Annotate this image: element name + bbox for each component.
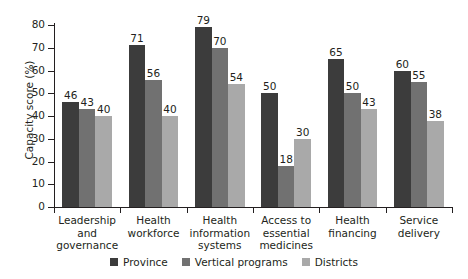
bar-value-label: 18 [279, 153, 292, 165]
bar-group: 464340 [62, 25, 112, 207]
y-axis-tick-label: 70 [32, 41, 45, 54]
legend-label: Districts [315, 256, 358, 268]
x-axis-tick [452, 208, 453, 213]
x-axis-category-label-line: medicines [247, 239, 325, 252]
legend-item[interactable]: Districts [302, 256, 358, 268]
bar-value-label: 54 [230, 71, 243, 83]
y-axis-tick-label: 50 [32, 86, 45, 99]
bar: 43 [361, 109, 378, 207]
y-axis-tick-label: 20 [32, 155, 45, 168]
plot-area: 464340715640797054501830655043605538 [54, 25, 452, 207]
bar: 40 [162, 116, 179, 207]
bar-group: 605538 [394, 25, 444, 207]
bar: 56 [145, 80, 162, 207]
bar-value-label: 50 [346, 80, 359, 92]
bar: 54 [228, 84, 245, 207]
bar-group: 797054 [195, 25, 245, 207]
bar-value-label: 30 [296, 126, 309, 138]
bar-value-label: 43 [362, 96, 375, 108]
x-axis-category-label-line: Service [380, 214, 458, 227]
bar-value-label: 70 [213, 35, 226, 47]
legend-swatch-icon [182, 258, 190, 266]
x-axis-tick [253, 208, 254, 213]
bar: 46 [62, 102, 79, 207]
y-axis-tick-label: 40 [32, 109, 45, 122]
bar-value-label: 55 [412, 69, 425, 81]
legend-swatch-icon [110, 258, 118, 266]
bar: 18 [278, 166, 295, 207]
x-axis-tick [386, 208, 387, 213]
x-axis-tick [187, 208, 188, 213]
y-axis-tick-label: 0 [38, 200, 45, 213]
bar: 79 [195, 27, 212, 207]
y-axis-tick-label: 10 [32, 177, 45, 190]
x-axis-tick [54, 208, 55, 213]
bar: 70 [212, 48, 229, 207]
chart-legend: ProvinceVertical programsDistricts [0, 256, 468, 268]
bar-value-label: 43 [80, 96, 93, 108]
bar-value-label: 60 [396, 58, 409, 70]
x-axis-category-label-line: delivery [380, 227, 458, 240]
bar-value-label: 50 [263, 80, 276, 92]
y-axis-tick-label: 80 [32, 18, 45, 31]
x-axis-tick [319, 208, 320, 213]
bar: 71 [129, 45, 146, 207]
bar-value-label: 46 [64, 89, 77, 101]
x-axis-tick [120, 208, 121, 213]
bar-value-label: 71 [130, 32, 143, 44]
bar: 65 [328, 59, 345, 207]
bar-value-label: 56 [147, 67, 160, 79]
y-axis-tick-label: 60 [32, 64, 45, 77]
bar: 38 [427, 121, 444, 207]
bar-value-label: 40 [97, 103, 110, 115]
bar-group: 501830 [261, 25, 311, 207]
bar: 30 [294, 139, 311, 207]
y-axis-tick-label: 30 [32, 132, 45, 145]
bar: 50 [261, 93, 278, 207]
bar-value-label: 40 [163, 103, 176, 115]
bar: 50 [344, 93, 361, 207]
legend-label: Province [123, 256, 168, 268]
bar: 60 [394, 71, 411, 208]
x-axis-category-label-line: governance [48, 239, 126, 252]
bar: 43 [79, 109, 96, 207]
legend-item[interactable]: Province [110, 256, 168, 268]
x-axis-category-label: Servicedelivery [380, 214, 458, 239]
bar: 55 [411, 82, 428, 207]
bar: 40 [95, 116, 112, 207]
bar-chart: Capacity score (%) 01020304050607080 464… [0, 0, 468, 279]
bar-value-label: 79 [197, 14, 210, 26]
bar-group: 715640 [129, 25, 179, 207]
bar-value-label: 65 [329, 46, 342, 58]
bar-value-label: 38 [429, 108, 442, 120]
legend-swatch-icon [302, 258, 310, 266]
legend-item[interactable]: Vertical programs [182, 256, 288, 268]
legend-label: Vertical programs [195, 256, 288, 268]
bar-group: 655043 [328, 25, 378, 207]
